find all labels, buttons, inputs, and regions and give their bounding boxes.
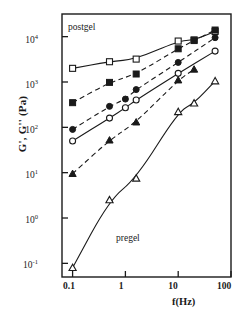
series-4-point-3	[175, 77, 182, 83]
series-3-point-2	[122, 105, 128, 111]
series-5-point-0	[69, 264, 76, 270]
plot-frame	[62, 14, 231, 277]
series-2-point-5	[212, 35, 218, 41]
series-3-point-3	[133, 97, 139, 103]
series-line-4	[73, 69, 194, 173]
series-5-point-1	[106, 196, 113, 202]
series-2-point-1	[107, 103, 113, 109]
series-4-point-1	[106, 137, 113, 143]
series-3-point-1	[107, 115, 113, 121]
series-0-point-0	[70, 65, 76, 71]
series-2-point-4	[175, 59, 181, 65]
series-3-point-4	[175, 70, 181, 76]
series-1-point-2	[133, 71, 139, 77]
series-2-point-2	[122, 96, 128, 102]
series-5-point-5	[212, 77, 219, 83]
plot-canvas	[0, 0, 250, 318]
series-line-2	[73, 38, 216, 130]
series-2-point-3	[133, 87, 139, 93]
series-3-point-5	[212, 48, 218, 54]
series-3-point-0	[70, 138, 76, 144]
series-line-5	[73, 81, 216, 268]
series-2-point-0	[70, 126, 76, 132]
series-0-point-2	[133, 56, 139, 62]
series-0-point-1	[107, 59, 113, 65]
series-1-point-1	[107, 79, 113, 85]
series-1-point-3	[175, 46, 181, 52]
series-1-point-4	[191, 38, 197, 44]
series-4-point-4	[190, 66, 197, 72]
figure-container: G', G'' (Pa) f(Hz) 104 103 102 101 100 1…	[0, 0, 250, 318]
series-4-point-2	[133, 119, 140, 125]
series-0-point-3	[175, 38, 181, 44]
series-1-point-5	[212, 27, 218, 33]
series-1-point-0	[70, 100, 76, 106]
